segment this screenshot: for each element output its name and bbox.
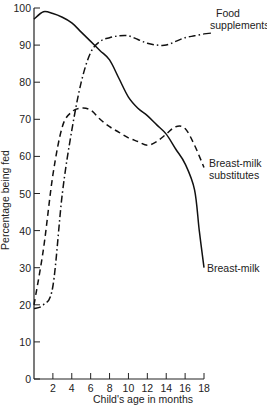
label-subs-2: substitutes [209,169,259,181]
series-breast-milk-substitutes [34,108,204,305]
label-subs-1: Breast-milk [209,157,262,169]
y-tick-label: 60 [19,150,31,162]
y-tick-label: 10 [19,336,31,348]
y-tick-label: 100 [13,2,31,14]
food-label-leader [204,33,213,34]
chart-canvas: 010203040506070809010024681012141618 Foo… [0,0,267,419]
x-tick-label: 4 [69,382,75,394]
x-axis-title: Child's age in months [93,393,193,405]
y-tick-label: 0 [25,373,31,385]
y-tick-label: 40 [19,225,31,237]
y-tick-label: 50 [19,188,31,200]
x-tick-label: 2 [50,382,56,394]
series-food-supplements [34,34,204,309]
label-breast-milk: Breast-milk [207,262,260,274]
y-tick-label: 70 [19,113,31,125]
label-food-1: Food [216,7,240,19]
x-tick-label: 18 [198,382,210,394]
y-tick-label: 80 [19,76,31,88]
axes: 010203040506070809010024681012141618 [13,2,210,394]
label-food-2: supplements [210,19,267,31]
y-tick-label: 30 [19,262,31,274]
series-labels: Food supplements Breast-milk substitutes… [207,7,267,274]
line-chart: 010203040506070809010024681012141618 Foo… [0,0,267,419]
y-axis-title: Percentage being fed [0,150,11,250]
y-tick-label: 20 [19,299,31,311]
data-lines [34,11,213,308]
y-tick-label: 90 [19,39,31,51]
